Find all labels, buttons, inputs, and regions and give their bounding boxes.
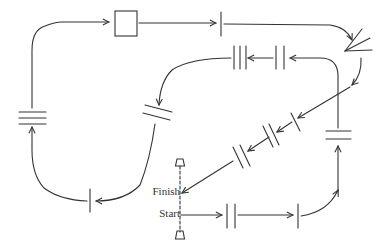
obstacle-double-vertical-1 bbox=[227, 204, 235, 228]
obstacle-double-diagonal-3 bbox=[233, 145, 250, 168]
start-label: Start bbox=[159, 208, 180, 219]
obstacle-double-diagonal-1 bbox=[143, 105, 172, 120]
obstacle-double-horizontal-1 bbox=[326, 131, 351, 139]
obstacle-double-diagonal-2 bbox=[263, 124, 279, 147]
obstacle-double-vertical-2 bbox=[276, 46, 284, 69]
course-diagram bbox=[0, 0, 386, 250]
obstacle-fan-1 bbox=[345, 29, 372, 51]
obstacle-triple-vertical-1 bbox=[234, 46, 246, 69]
obstacle-box-1 bbox=[115, 11, 137, 36]
finish-label: Finish bbox=[152, 186, 180, 197]
obstacle-triple-horizontal-1 bbox=[19, 112, 46, 124]
cone-top-icon bbox=[176, 159, 185, 166]
